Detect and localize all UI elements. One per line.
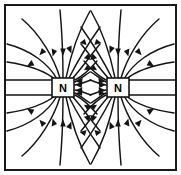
figure-frame: Magnetic field lines between two like po… [0, 0, 181, 175]
diagram-border [5, 5, 176, 170]
figure-root: Magnetic field lines between two like po… [0, 0, 181, 175]
left-magnet-pole-label: N [59, 82, 67, 94]
right-magnet-pole-label: N [114, 82, 122, 94]
magnetic-field-diagram: Magnetic field lines between two like po… [0, 0, 181, 175]
